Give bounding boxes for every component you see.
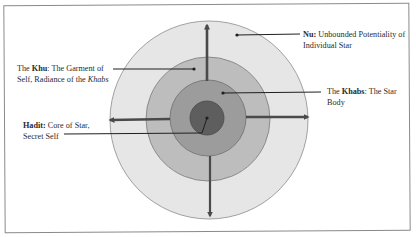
label-khu-term: Khu [32,64,47,73]
label-khabs: The Khabs: The Star Body [327,86,397,108]
label-khu: The Khu: The Garment of Self, Radiance o… [17,63,109,85]
arrow-left-icon [110,119,170,120]
label-nu-term: Nu: [303,30,316,39]
label-nu: Nu: Unbounded Potentiality of Individual… [303,29,405,51]
label-hadit-term: Hadit: [23,121,46,130]
label-hadit: Hadit: Core of Star, Secret Self [23,120,90,142]
label-khabs-term: Khabs [342,87,365,96]
